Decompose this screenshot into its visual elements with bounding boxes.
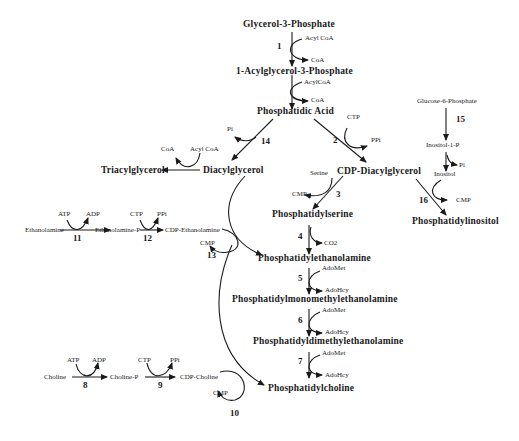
cofactor-serine-3: Serine xyxy=(310,169,328,177)
reaction-number-5: 5 xyxy=(298,273,303,283)
cofactor-pi-15b: Pi xyxy=(459,161,465,169)
compound-ethanolamine: Ethanolamine xyxy=(25,226,64,234)
compound-phosphatidylethanolamine: Phosphatidylethanolamine xyxy=(258,253,371,263)
cofactor-cmp-16: CMP xyxy=(456,196,471,204)
reaction-number-6: 6 xyxy=(298,315,303,325)
cofactor-pi-14: Pi xyxy=(227,125,233,133)
compound-phosphatidylmonomethylethanolamine: Phosphatidylmonomethylethanolamine xyxy=(232,294,398,304)
reaction-number-3: 3 xyxy=(336,189,341,199)
cofactor-adp-8: ADP xyxy=(92,356,106,364)
compound-ethanolamine-p: Ethanolamine-P xyxy=(95,226,140,234)
cofactor-coa-tag: CoA xyxy=(161,145,174,153)
compound-cdp-ethanolamine: CDP-Ethanolamine xyxy=(165,226,220,234)
compound-phosphatidylcholine: Phosphatidylcholine xyxy=(268,383,354,393)
compound-glycerol-3-phosphate: Glycerol-3-Phosphate xyxy=(243,19,335,29)
cofactor-atp-11: ATP xyxy=(58,210,70,218)
reaction-number-8: 8 xyxy=(83,380,88,390)
reaction-number-12: 12 xyxy=(143,233,152,243)
cofactor-acyl-coa-tag: Acyl CoA xyxy=(190,145,219,153)
cofactor-acylcoa-1b: AcylCoA xyxy=(304,78,331,86)
cofactor-adomet-5: AdoMet xyxy=(322,264,345,272)
cofactor-adohcy-6: AdoHcy xyxy=(325,328,349,336)
cofactor-adomet-6: AdoMet xyxy=(322,306,345,314)
reaction-number-13: 13 xyxy=(207,250,216,260)
compound-triacylglycerol: Triacylglycerol xyxy=(101,165,165,175)
compound-1-acylglycerol-3-phosphate: 1-Acylglycerol-3-Phosphate xyxy=(236,66,353,76)
cofactor-cmp-13: CMP xyxy=(200,239,215,247)
compound-cdp-choline: CDP-Choline xyxy=(180,373,218,381)
cofactor-ppi-12: PPi xyxy=(157,210,167,218)
cofactor-cmp-10: CMP xyxy=(213,389,228,397)
cofactor-co2-4: CO2 xyxy=(324,239,337,247)
pathway-diagram: Glycerol-3-Phosphate 1-Acylglycerol-3-Ph… xyxy=(0,0,519,441)
reaction-number-4: 4 xyxy=(298,231,303,241)
compound-diacylglycerol: Diacylglycerol xyxy=(203,165,264,175)
compound-inositol: Inositol xyxy=(434,170,455,178)
reaction-number-11: 11 xyxy=(73,233,82,243)
reaction-number-10: 10 xyxy=(230,408,239,418)
compound-phosphatidyldimethylethanolamine: Phosphatidyldimethylethanolamine xyxy=(253,336,404,346)
cofactor-coa-1: CoA xyxy=(311,56,324,64)
cofactor-ctp-9: CTP xyxy=(138,356,151,364)
cofactor-adp-11: ADP xyxy=(86,210,100,218)
reaction-number-15: 15 xyxy=(456,114,465,124)
cofactor-atp-8: ATP xyxy=(67,356,79,364)
compound-phosphatidylserine: Phosphatidylserine xyxy=(272,209,353,219)
compound-glucose-6-phosphate: Glucose-6-Phosphate xyxy=(417,97,477,105)
compound-phosphatidic-acid: Phosphatidic Acid xyxy=(257,106,334,116)
compound-cdp-diacylglycerol: CDP-Diacylglycerol xyxy=(337,166,421,176)
cofactor-adohcy-5: AdoHcy xyxy=(325,286,349,294)
compound-choline-p: Choline-P xyxy=(110,373,138,381)
reaction-number-2: 2 xyxy=(333,135,338,145)
cofactor-ctp-12: CTP xyxy=(130,210,143,218)
cofactor-adomet-7: AdoMet xyxy=(322,349,345,357)
reaction-number-14: 14 xyxy=(261,136,270,146)
cofactor-acyl-coa-1: Acyl CoA xyxy=(305,34,334,42)
cofactor-ppi-2: PPi xyxy=(371,136,381,144)
reaction-number-7: 7 xyxy=(298,356,303,366)
cofactor-adohcy-7: AdoHcy xyxy=(325,371,349,379)
compound-inositol-1-p: Inositol-1-P xyxy=(426,141,459,149)
cofactor-ctp-2: CTP xyxy=(347,113,360,121)
cofactor-cmp-3: CMP xyxy=(292,190,307,198)
compound-phosphatidylinositol: Phosphatidylinositol xyxy=(412,216,499,226)
compound-choline: Choline xyxy=(44,373,66,381)
cofactor-ppi-9: PPi xyxy=(170,356,180,364)
reaction-number-9: 9 xyxy=(158,380,163,390)
reaction-number-1: 1 xyxy=(277,41,282,51)
cofactor-coa-1b: CoA xyxy=(311,96,324,104)
reaction-number-16: 16 xyxy=(419,195,428,205)
